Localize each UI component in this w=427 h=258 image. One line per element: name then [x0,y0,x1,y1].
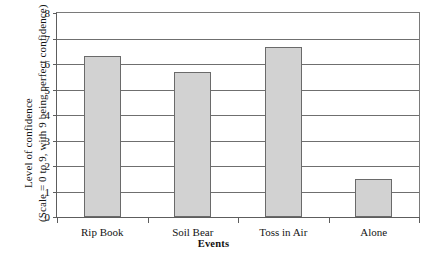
plot-area: 012345678 Rip BookSoil BearToss in AirAl… [56,12,420,218]
x-axis-category-label: Rip Book [81,226,123,238]
gridline [57,39,419,40]
y-axis-tick [53,166,57,167]
bar [174,72,211,217]
y-axis-tick-label: 2 [45,161,51,172]
y-axis-tick [53,115,57,116]
y-axis-tick [53,90,57,91]
y-axis-tick-label: 4 [45,110,51,121]
y-axis-tick [53,13,57,14]
y-axis-title: Level of confidence (Scale = 0 to 9, wit… [0,0,40,230]
bar [265,47,302,217]
x-axis-category-label: Soil Bear [172,226,213,238]
bar [84,56,121,217]
y-axis-tick-label: 5 [45,84,51,95]
x-axis-title: Events [0,238,427,249]
y-axis-tick-label: 3 [45,135,51,146]
y-axis-tick-label: 6 [45,59,51,70]
x-axis-tick [419,217,420,223]
y-axis-tick [53,64,57,65]
x-axis-tick [57,217,58,223]
y-axis-title-line-1: Level of confidence [22,98,34,188]
x-axis-tick [238,217,239,223]
x-axis-category-label: Toss in Air [259,226,307,238]
x-axis-title-text: Events [198,238,230,249]
y-axis-tick [53,141,57,142]
x-axis-tick [329,217,330,223]
bar [355,179,392,217]
bar-chart-figure: Level of confidence (Scale = 0 to 9, wit… [0,0,427,258]
y-axis-tick [53,192,57,193]
y-axis-tick-label: 0 [45,212,51,223]
y-axis-tick-label: 1 [45,186,51,197]
y-axis-tick [53,39,57,40]
x-axis-tick [148,217,149,223]
y-axis-tick-label: 7 [45,33,51,44]
x-axis-category-label: Alone [360,226,387,238]
y-axis-tick-label: 8 [45,8,51,19]
